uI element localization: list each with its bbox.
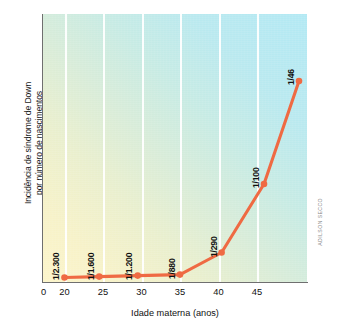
data-point-label: 1/100 bbox=[251, 167, 261, 188]
x-tick-label-30: 30 bbox=[136, 287, 146, 297]
x-tick-label-35: 35 bbox=[175, 287, 185, 297]
data-point-label: 1/880 bbox=[167, 258, 177, 279]
gridline-30 bbox=[142, 14, 144, 282]
plot-area bbox=[43, 14, 307, 282]
down-syndrome-incidence-chart: Incidência de síndrome de Down por númer… bbox=[0, 0, 343, 331]
data-point-label: 1/2.300 bbox=[51, 253, 61, 280]
x-tick-label-40: 40 bbox=[213, 287, 223, 297]
gridline-45 bbox=[257, 14, 259, 282]
plot-background-gradient bbox=[43, 14, 307, 282]
x-axis-title: Idade materna (anos) bbox=[43, 308, 307, 318]
x-tick-label-25: 25 bbox=[98, 287, 108, 297]
gridline-35 bbox=[180, 14, 182, 282]
gridline-20 bbox=[65, 14, 67, 282]
x-axis-line bbox=[43, 282, 308, 283]
illustration-credit: ADILSON SECCO bbox=[317, 198, 323, 246]
data-point-label: 1/1.600 bbox=[86, 253, 96, 280]
data-point-label: 1/46 bbox=[286, 69, 296, 85]
y-axis-line bbox=[42, 14, 43, 283]
x-tick-label-20: 20 bbox=[59, 287, 69, 297]
x-tick-label-45: 45 bbox=[252, 287, 262, 297]
x-tick-label-0: 0 bbox=[41, 287, 46, 297]
data-point-label: 1/290 bbox=[209, 236, 219, 257]
data-point-label: 1/1.200 bbox=[124, 253, 134, 280]
y-axis-title-line-1: Incidência de síndrome de Down bbox=[23, 82, 34, 204]
gridline-25 bbox=[103, 14, 105, 282]
